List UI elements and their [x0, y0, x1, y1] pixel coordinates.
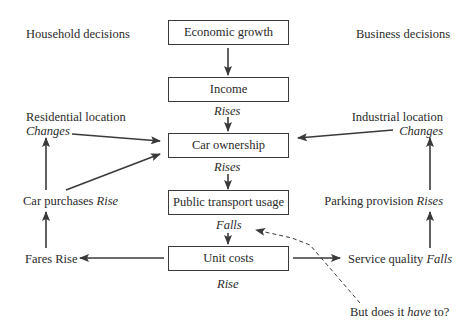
household-decisions-heading: Household decisions	[26, 27, 130, 41]
box-income: Income	[168, 77, 289, 102]
box-label: Income	[210, 82, 247, 97]
industrial-location-effect: Changes	[330, 124, 443, 138]
residential-location-effect: Changes	[26, 124, 70, 138]
box-unit-costs: Unit costs	[168, 246, 289, 271]
arrow-purchases-to-car	[66, 154, 160, 190]
parking-provision-effect: Rises	[417, 194, 443, 208]
arrow-residential-to-car	[72, 134, 160, 141]
public-transport-effect: Falls	[216, 218, 242, 232]
box-label: Car ownership	[192, 138, 265, 153]
residential-location-label: Residential location	[26, 110, 126, 124]
fares-rise-label: Fares Rise	[25, 252, 77, 266]
box-car-ownership: Car ownership	[168, 133, 289, 158]
income-effect: Rises	[214, 104, 240, 118]
box-economic-growth: Economic growth	[168, 20, 289, 45]
box-public-transport-usage: Public transport usage	[168, 190, 289, 215]
unit-costs-effect: Rise	[217, 277, 239, 291]
parking-provision-label: Parking provision Rises	[300, 194, 443, 208]
car-ownership-effect: Rises	[214, 160, 240, 174]
box-label: Economic growth	[184, 25, 273, 40]
box-label: Unit costs	[203, 251, 253, 266]
box-label: Public transport usage	[173, 195, 284, 210]
car-purchases-label: Car purchases Rise	[23, 194, 118, 208]
industrial-location-label: Industrial location	[330, 110, 443, 124]
service-quality-effect: Falls	[426, 252, 452, 266]
car-purchases-effect: Rise	[97, 194, 119, 208]
service-quality-label: Service quality Falls	[348, 252, 452, 266]
question-annotation: But does it have to?	[350, 305, 449, 319]
business-decisions-heading: Business decisions	[356, 27, 450, 41]
question-emphasis: have	[407, 305, 431, 319]
